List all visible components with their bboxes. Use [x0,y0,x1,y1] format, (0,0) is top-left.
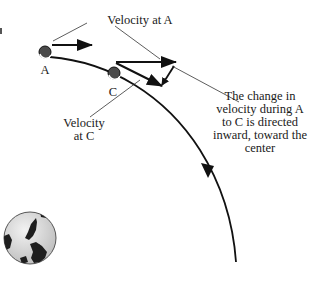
satellite-ball-icon-c [108,67,120,79]
svg-text:inward, toward the: inward, toward the [213,128,308,142]
pointer-lines [53,23,239,117]
edge-artifact [0,28,2,34]
svg-text:velocity during A: velocity during A [216,102,304,116]
svg-text:Velocity: Velocity [63,116,105,130]
label-velocity-at-a: Velocity at A [107,13,172,27]
svg-text:at C: at C [74,129,94,143]
label-velocity-at-c: Velocity at C [63,116,105,143]
svg-text:The change in: The change in [225,89,297,103]
svg-text:to C is directed: to C is directed [222,115,299,129]
svg-text:center: center [245,141,276,155]
label-change-in-velocity: The change in velocity during A to C is … [213,89,308,155]
velocity-c-arrow [116,63,162,86]
earth-globe-icon [4,212,56,264]
label-point-a: A [40,63,49,77]
satellite-ball-icon-a [39,46,51,58]
orbit-velocity-diagram: Velocity at A A C Velocity at C The chan… [0,0,310,283]
label-point-c: C [109,85,117,99]
orbit-path [50,57,236,262]
delta-velocity-arrow [162,66,174,85]
